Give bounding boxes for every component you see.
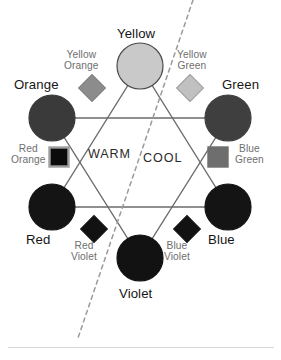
swatch-red-orange [50,148,69,167]
swatch-blue-violet [174,216,201,243]
label-yellow-orange: YellowOrange [64,49,99,71]
label-yellow-orange-line2: Orange [64,60,99,71]
circle-green [205,95,251,141]
label-blue-green-line1: Blue [235,143,264,154]
label-blue-green-line2: Green [235,154,264,165]
label-blue-violet-line1: Blue [164,240,190,251]
swatch-blue-green [209,148,228,167]
color-wheel-diagram: WARMCOOL YellowOrangeGreenRedBlueViolet … [0,0,281,360]
color-wheel-graphic [0,0,281,360]
temperature-label-warm: WARM [88,148,131,162]
triangle-group [52,66,228,258]
label-red-violet-line1: Red [71,240,97,251]
label-green: Green [222,78,259,92]
circle-blue [205,184,251,230]
label-blue-violet-line2: Violet [164,251,190,262]
label-orange: Orange [14,78,59,92]
label-red-violet: RedViolet [71,240,97,262]
label-red-orange: RedOrange [11,143,46,165]
temperature-label-cool: COOL [143,152,182,166]
circle-violet [117,235,163,281]
label-yellow-green: YellowGreen [177,49,207,71]
label-red-orange-line1: Red [11,143,46,154]
label-yellow-green-line1: Yellow [177,49,207,60]
circle-red [29,184,75,230]
footer-divider [8,347,274,348]
circle-yellow [117,43,163,89]
label-red-orange-line2: Orange [11,154,46,165]
label-blue: Blue [208,233,235,247]
swatch-yellow-orange [79,75,106,102]
label-blue-violet: BlueViolet [164,240,190,262]
label-red-violet-line2: Violet [71,251,97,262]
label-yellow-green-line2: Green [177,60,207,71]
swatch-yellow-green [177,75,204,102]
swatch-red-violet [81,216,108,243]
label-red: Red [26,233,51,247]
label-yellow-orange-line1: Yellow [64,49,99,60]
label-blue-green: BlueGreen [235,143,264,165]
circle-orange [29,95,75,141]
label-violet: Violet [119,287,152,301]
label-yellow: Yellow [117,27,155,41]
